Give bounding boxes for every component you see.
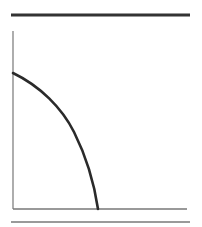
- chart-figure: [0, 0, 202, 227]
- frontier-curve: [13, 73, 98, 209]
- chart-svg: [0, 0, 202, 227]
